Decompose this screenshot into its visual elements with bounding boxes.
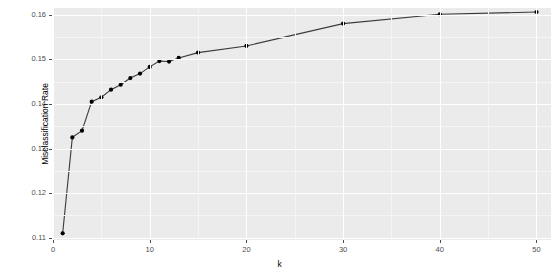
y-axis-tick-mark: [49, 238, 52, 239]
gridline-vertical: [246, 8, 247, 240]
gridline-horizontal: [53, 193, 551, 194]
gridline-horizontal: [53, 238, 551, 239]
gridline-horizontal-minor: [53, 171, 551, 172]
data-series-line: [53, 8, 551, 240]
x-axis-tick-label: 0: [38, 246, 68, 254]
x-axis-tick-mark: [343, 240, 344, 243]
plot-panel: [53, 8, 551, 240]
y-axis-tick-mark: [49, 59, 52, 60]
data-point: [119, 83, 123, 87]
gridline-horizontal: [53, 149, 551, 150]
y-axis-tick-mark: [49, 193, 52, 194]
x-axis-tick-mark: [150, 240, 151, 243]
x-axis-tick-label: 50: [521, 246, 551, 254]
data-point: [138, 71, 142, 75]
gridline-vertical: [150, 8, 151, 240]
x-axis-tick-label: 30: [328, 246, 358, 254]
data-point: [128, 76, 132, 80]
chart-container: 0.110.120.130.140.150.16 01020304050 Mis…: [0, 0, 559, 278]
data-point: [80, 129, 84, 133]
gridline-horizontal: [53, 59, 551, 60]
gridline-horizontal-minor: [53, 215, 551, 216]
x-axis-title: k: [0, 259, 559, 269]
series-line: [63, 12, 537, 233]
gridline-horizontal: [53, 15, 551, 16]
x-axis-tick-mark: [53, 240, 54, 243]
data-point: [61, 231, 65, 235]
x-axis-tick-label: 40: [425, 246, 455, 254]
gridline-vertical: [536, 8, 537, 240]
y-axis-title: Misclassification Rate: [40, 83, 50, 165]
gridline-vertical: [343, 8, 344, 240]
data-point: [70, 135, 74, 139]
x-axis-tick-mark: [536, 240, 537, 243]
gridline-horizontal-minor: [53, 37, 551, 38]
gridline-vertical-minor: [295, 8, 296, 240]
gridline-vertical-minor: [391, 8, 392, 240]
gridline-horizontal-minor: [53, 126, 551, 127]
x-axis-tick-mark: [440, 240, 441, 243]
gridline-horizontal-minor: [53, 82, 551, 83]
gridline-vertical-minor: [101, 8, 102, 240]
y-axis-title-wrap: Misclassification Rate: [6, 0, 22, 248]
x-axis-tick-label: 20: [231, 246, 261, 254]
gridline-vertical: [53, 8, 54, 240]
x-axis-tick-label: 10: [135, 246, 165, 254]
x-axis-tick-mark: [246, 240, 247, 243]
gridline-vertical: [440, 8, 441, 240]
y-axis-tick-mark: [49, 15, 52, 16]
gridline-vertical-minor: [198, 8, 199, 240]
gridline-horizontal: [53, 104, 551, 105]
data-point: [109, 88, 113, 92]
gridline-vertical-minor: [488, 8, 489, 240]
